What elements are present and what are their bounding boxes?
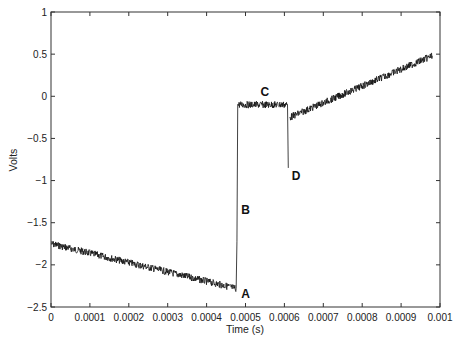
y-tick-label: 0.5	[33, 49, 47, 60]
x-tick-label: 0.0006	[269, 312, 300, 323]
axes-frame	[51, 12, 440, 307]
x-tick-label: 0.0009	[386, 312, 417, 323]
x-tick-label: 0.0005	[230, 312, 261, 323]
y-axis-label: Volts	[7, 149, 19, 172]
x-tick-label: 0.0003	[152, 312, 183, 323]
y-tick-label: 0	[41, 91, 47, 102]
plot-area	[51, 53, 432, 292]
y-tick-label: −2	[36, 259, 48, 270]
y-tick-label: −1.5	[27, 217, 47, 228]
signal-line	[51, 53, 432, 292]
x-tick-label: 0.0008	[347, 312, 378, 323]
x-tick-label: 0.001	[427, 312, 452, 323]
annotation-c: C	[261, 85, 270, 99]
y-tick-label: −0.5	[27, 133, 47, 144]
y-tick-label: −2.5	[27, 302, 47, 313]
x-axis-label: Time (s)	[226, 323, 264, 335]
x-tick-label: 0	[48, 312, 54, 323]
x-tick-label: 0.0007	[308, 312, 339, 323]
y-tick-label: 1	[41, 7, 47, 18]
line-chart: 00.00010.00020.00030.00040.00050.00060.0…	[0, 0, 464, 348]
x-tick-label: 0.0001	[75, 312, 106, 323]
annotation-a: A	[241, 287, 250, 301]
annotation-d: D	[292, 169, 301, 183]
x-tick-label: 0.0002	[114, 312, 145, 323]
axis-ticks: 00.00010.00020.00030.00040.00050.00060.0…	[27, 7, 453, 324]
annotation-b: B	[241, 203, 250, 217]
x-tick-label: 0.0004	[191, 312, 222, 323]
y-tick-label: −1	[36, 175, 48, 186]
